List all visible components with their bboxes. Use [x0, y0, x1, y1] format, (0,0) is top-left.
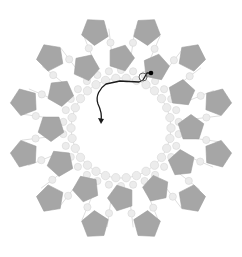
outer-pentagon: [10, 89, 36, 116]
inner-pentagon: [73, 176, 98, 202]
beading-diagram: [0, 0, 242, 257]
seed-bead: [157, 153, 165, 161]
seed-bead: [101, 171, 109, 179]
bridge-bead: [203, 136, 210, 143]
outer-pentagon: [37, 185, 63, 211]
outer-pentagon: [82, 20, 109, 46]
seed-bead: [68, 113, 76, 121]
seed-bead: [130, 68, 137, 75]
bridge-bead: [38, 157, 45, 164]
bridge-bead: [169, 193, 176, 200]
seed-bead: [142, 81, 150, 89]
seed-bead: [132, 171, 140, 179]
seed-bead: [112, 174, 120, 182]
bridge-bead: [128, 210, 135, 217]
seed-bead: [62, 142, 69, 149]
seed-bead: [163, 144, 171, 152]
bridge-bead: [65, 192, 72, 199]
bridge-bead: [32, 135, 39, 142]
inner-pentagon: [169, 80, 195, 105]
seed-bead: [173, 107, 180, 114]
outer-pentagon: [37, 45, 63, 71]
bridge-bead: [85, 45, 92, 52]
seed-bead: [92, 81, 100, 89]
seed-bead: [167, 124, 175, 132]
seed-bead: [71, 144, 79, 152]
outer-pentagon: [82, 211, 109, 237]
seed-bead: [74, 163, 81, 170]
bridge-bead: [151, 45, 158, 52]
seed-bead: [130, 181, 137, 188]
seed-bead: [105, 181, 112, 188]
bridge-bead: [203, 114, 210, 121]
outer-pentagon: [206, 89, 232, 116]
seed-bead: [71, 104, 79, 112]
bridge-bead: [50, 72, 57, 79]
outer-pentagon: [206, 140, 232, 167]
seed-bead: [166, 113, 174, 121]
seed-bead: [166, 134, 174, 142]
outer-pentagon: [179, 185, 205, 211]
seed-bead: [161, 163, 168, 170]
bridge-bead: [105, 210, 112, 217]
seed-bead: [67, 124, 75, 132]
seed-bead: [62, 107, 69, 114]
outer-pentagon: [10, 140, 36, 167]
seed-bead: [83, 161, 91, 169]
bridge-bead: [197, 158, 204, 165]
bridge-bead: [150, 204, 157, 211]
seed-bead: [122, 174, 130, 182]
bridge-bead: [38, 91, 45, 98]
outer-pentagon: [179, 45, 205, 71]
seed-bead: [83, 87, 91, 95]
outer-pentagon: [134, 211, 161, 237]
inner-pentagon: [47, 151, 72, 176]
outer-pentagon: [134, 20, 161, 46]
seed-bead: [142, 167, 150, 175]
seed-bead: [173, 142, 180, 149]
bridge-bead: [170, 57, 177, 64]
inner-pentagon: [108, 185, 132, 211]
inner-pentagon: [144, 54, 169, 79]
seed-bead: [105, 68, 112, 75]
bridge-bead: [129, 39, 136, 46]
inner-seed-bead-ring: [60, 66, 183, 189]
seed-bead: [157, 94, 165, 102]
seed-bead: [68, 134, 76, 142]
seed-bead: [92, 167, 100, 175]
bridge-bead: [197, 92, 204, 99]
bridge-bead: [32, 112, 39, 119]
bridge-bead: [185, 177, 192, 184]
bridge-bead: [107, 39, 114, 46]
arrowhead-icon: [98, 118, 104, 124]
bridge-bead: [186, 73, 193, 80]
seed-bead: [150, 161, 158, 169]
seed-bead: [76, 94, 84, 102]
bridge-bead: [66, 56, 73, 63]
seed-bead: [74, 86, 81, 93]
bridge-bead: [84, 204, 91, 211]
bridge-bead: [49, 176, 56, 183]
seed-bead: [163, 104, 171, 112]
knot-dot: [149, 71, 154, 76]
seed-bead: [76, 153, 84, 161]
inner-pentagon: [110, 45, 134, 71]
seed-bead: [161, 86, 168, 93]
seed-bead: [150, 87, 158, 95]
